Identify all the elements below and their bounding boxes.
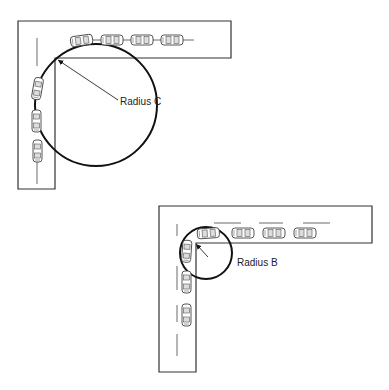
car: [161, 35, 183, 45]
radius-arrow-b: [196, 244, 208, 257]
car: [197, 227, 220, 239]
radius-c-label: Radius C: [120, 96, 161, 107]
car: [131, 35, 153, 45]
car: [32, 110, 41, 132]
car: [294, 228, 316, 238]
car: [263, 228, 285, 238]
car: [181, 240, 192, 263]
car: [182, 271, 191, 293]
radius-b-label: Radius B: [237, 257, 278, 268]
car: [182, 304, 191, 326]
car: [232, 228, 254, 238]
diagram-canvas: [0, 0, 389, 390]
car: [101, 35, 123, 45]
car: [31, 77, 44, 100]
radius-arrow-c: [58, 60, 118, 100]
road-corner-small-radius: [159, 206, 372, 372]
car: [33, 140, 42, 162]
